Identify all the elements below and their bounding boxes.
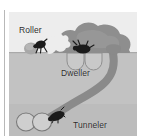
- dung-beetle-diagram: Roller Dweller Tunneler: [9, 12, 137, 136]
- label-tunneler: Tunneler: [73, 120, 107, 130]
- page-gutter-rule: [4, 10, 5, 136]
- label-roller: Roller: [19, 25, 42, 35]
- figure-root: Roller Dweller Tunneler: [0, 0, 141, 136]
- label-dweller: Dweller: [61, 68, 90, 78]
